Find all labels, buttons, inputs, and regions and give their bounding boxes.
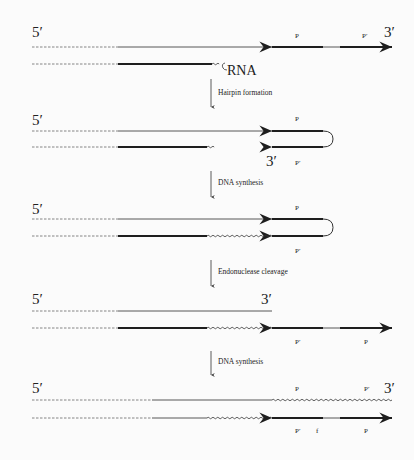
stage-2: 5′ P 3′ P′: [32, 112, 333, 169]
five-prime-label: 5′: [32, 291, 43, 307]
step-label: Endonuclease cleavage: [218, 267, 288, 276]
new-dna-segment: [272, 399, 392, 401]
step-label: DNA synthesis: [218, 178, 263, 187]
step-label: DNA synthesis: [218, 357, 263, 366]
hairpin-loop: [323, 131, 333, 147]
five-prime-label: 5′: [32, 112, 43, 128]
bottom-strand: [32, 63, 227, 70]
three-prime-label: 3′: [261, 291, 272, 307]
five-prime-label: 5′: [32, 380, 43, 396]
three-prime-label: 3′: [384, 24, 395, 40]
bottom-strand: [32, 327, 392, 329]
p-label: P: [295, 115, 299, 123]
p-label: P: [364, 338, 368, 346]
top-strand: [32, 399, 392, 401]
step-hairpin-formation: Hairpin formation: [211, 79, 273, 107]
bottom-strand: [32, 146, 214, 148]
p-label: P: [295, 204, 299, 212]
step-dna-synthesis-1: DNA synthesis: [211, 171, 263, 197]
bottom-strand: [32, 235, 272, 237]
f-label: f: [316, 427, 319, 435]
p-prime-label-top: P′: [364, 385, 370, 393]
new-dna-segment: [207, 327, 272, 329]
new-dna-segment: [207, 235, 272, 237]
three-prime-label: 3′: [266, 153, 277, 169]
p-prime-label: P′: [362, 32, 368, 40]
new-dna-segment: [207, 417, 272, 419]
stage-5: 5′ 3′ P P′ P′ f P: [32, 380, 395, 435]
stage-3: 5′ P P′: [32, 201, 333, 255]
step-dna-synthesis-2: DNA synthesis: [211, 351, 263, 375]
p-prime-label-bottom: P′: [295, 427, 301, 435]
rna-primer: [212, 63, 219, 65]
bottom-strand: [32, 417, 392, 419]
p-label-bottom: P: [364, 427, 368, 435]
p-prime-label: P′: [295, 338, 301, 346]
p-prime-label: P′: [295, 247, 301, 255]
five-prime-label: 5′: [32, 24, 43, 40]
rna-label: RNA: [227, 63, 257, 78]
stage-1: 5′ 3′ P P′ RNA: [32, 24, 395, 78]
step-label: Hairpin formation: [218, 88, 273, 97]
step-endonuclease-cleavage: Endonuclease cleavage: [211, 260, 288, 286]
five-prime-label: 5′: [32, 201, 43, 217]
p-label: P: [295, 32, 299, 40]
rna-primer: [207, 146, 214, 148]
hairpin-loop: [323, 219, 333, 236]
stage-4: 5′ 3′ P′ P: [32, 291, 392, 346]
hairpin-replication-diagram: 5′ 3′ P P′ RNA Hairpin formation 5′ P 3′…: [0, 0, 414, 460]
p-prime-label: P′: [295, 159, 301, 167]
three-prime-label: 3′: [384, 380, 395, 396]
p-label-top: P: [295, 385, 299, 393]
